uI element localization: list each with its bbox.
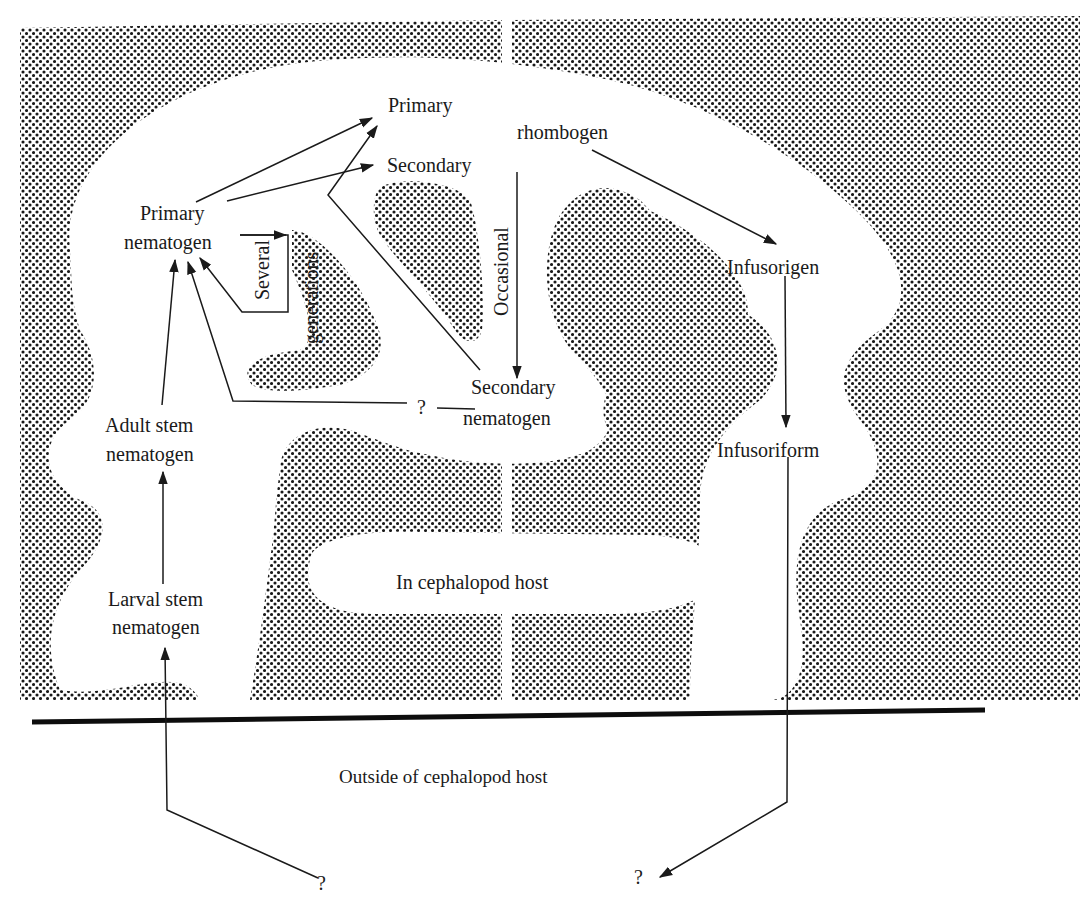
node-adult-stem-line1: Adult stem xyxy=(105,414,194,436)
node-unknown-mid: ? xyxy=(417,396,426,418)
node-infusoriform: Infusoriform xyxy=(717,439,820,461)
node-primary-rhombogen: Primary xyxy=(388,94,452,117)
node-secondary-nematogen-line1: Secondary xyxy=(471,376,555,399)
edge-label-occasional: Occasional xyxy=(490,227,512,316)
node-primary-nematogen-line1: Primary xyxy=(140,202,204,225)
node-unknown-bottom-right: ? xyxy=(634,866,643,888)
node-larval-stem-line2: nematogen xyxy=(112,616,200,639)
edge-infusorigen-to-infusoriform xyxy=(785,276,786,427)
node-adult-stem-line2: nematogen xyxy=(106,443,194,466)
node-primary-nematogen-line2: nematogen xyxy=(124,231,212,254)
node-secondary-nematogen-line2: nematogen xyxy=(463,407,551,430)
node-infusorigen: Infusorigen xyxy=(727,256,819,279)
life-cycle-diagram: Primary rhombogen Secondary Primary nema… xyxy=(0,0,1087,906)
node-unknown-bottom-left: ? xyxy=(317,872,326,894)
node-larval-stem-line1: Larval stem xyxy=(108,588,203,610)
region-outside-label: Outside of cephalopod host xyxy=(339,766,548,787)
edge-label-several: Several xyxy=(251,240,273,300)
node-secondary-rhombogen: Secondary xyxy=(387,154,471,177)
node-rhombogen: rhombogen xyxy=(517,121,608,144)
region-inside-label: In cephalopod host xyxy=(396,571,549,594)
outside-region xyxy=(0,700,1087,906)
edge-label-generations: generations xyxy=(300,252,323,344)
